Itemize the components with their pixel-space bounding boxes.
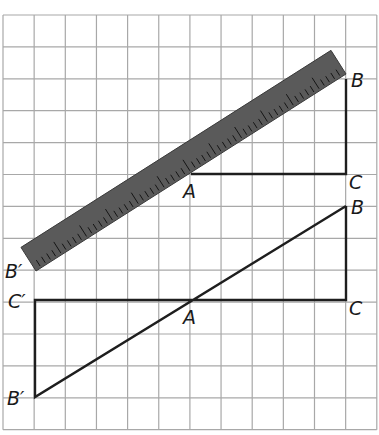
- label-upper-b: B: [351, 69, 364, 91]
- geometry-figure: B C A B′ B C A C′ B′: [0, 0, 379, 435]
- label-ruler-b-prime: B′: [5, 260, 23, 282]
- label-lower-c: C: [349, 297, 363, 319]
- label-upper-c: C: [349, 171, 363, 193]
- label-upper-a: A: [181, 180, 196, 202]
- label-lower-c-prime: C′: [8, 290, 26, 312]
- label-lower-b-prime: B′: [7, 387, 25, 409]
- label-lower-a: A: [181, 306, 196, 328]
- label-lower-b: B: [351, 196, 364, 218]
